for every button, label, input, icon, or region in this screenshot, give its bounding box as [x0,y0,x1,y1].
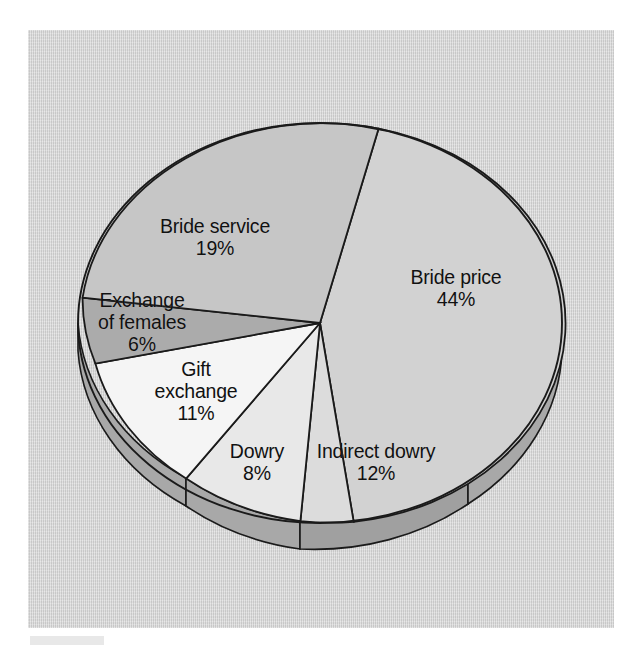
slice-label-gift-exchange-pct: 11% [130,402,262,424]
slice-label-exchange-of-females: Exchange of females 6% [78,289,206,356]
slice-label-indirect-dowry-name: Indirect dowry [317,440,436,462]
slice-label-indirect-dowry: Indirect dowry 12% [300,440,452,484]
slice-label-bride-price-name: Bride price [410,266,501,288]
slice-label-gift-exchange-line2: exchange [130,380,262,402]
slice-label-exchange-of-females-pct: 6% [78,333,206,355]
slice-label-gift-exchange: Gift exchange 11% [130,358,262,425]
slice-label-dowry: Dowry 8% [214,440,300,484]
slice-label-bride-service-name: Bride service [160,215,270,237]
figure-root: Bride price 44% Indirect dowry 12% Dowry… [0,0,643,651]
slice-label-bride-service: Bride service 19% [141,215,289,259]
slice-label-dowry-name: Dowry [230,440,284,462]
slice-label-bride-service-pct: 19% [141,237,289,259]
slice-label-exchange-of-females-line1: Exchange [99,289,184,311]
slice-label-bride-price: Bride price 44% [388,266,524,310]
slice-label-dowry-pct: 8% [214,462,300,484]
slice-label-bride-price-pct: 44% [388,288,524,310]
caption-fragment [30,636,104,645]
slice-label-exchange-of-females-line2: of females [78,311,206,333]
slice-label-indirect-dowry-pct: 12% [300,462,452,484]
slice-label-gift-exchange-line1: Gift [181,358,211,380]
